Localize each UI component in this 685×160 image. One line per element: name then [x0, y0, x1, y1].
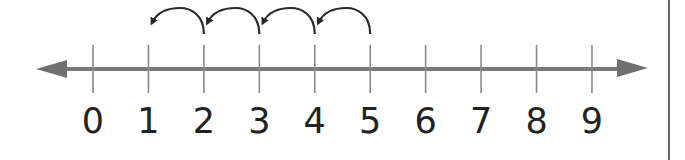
- tick-label-8: 8: [517, 102, 557, 140]
- hop-arcs: [152, 8, 370, 34]
- hop-arc-4-to-3: [263, 8, 314, 34]
- tick-label-1: 1: [128, 102, 168, 140]
- tick-label-0: 0: [73, 102, 113, 140]
- hop-arc-2-to-1: [152, 8, 203, 34]
- tick-label-3: 3: [239, 102, 279, 140]
- hop-arc-5-to-4: [319, 8, 370, 34]
- right-arrow-icon: [617, 59, 648, 77]
- number-line-diagram: 0123456789: [0, 0, 685, 160]
- hop-arc-3-to-2: [208, 8, 259, 34]
- tick-label-4: 4: [295, 102, 335, 140]
- tick-label-5: 5: [350, 102, 390, 140]
- tick-label-2: 2: [184, 102, 224, 140]
- left-arrow-icon: [36, 60, 67, 78]
- tick-label-9: 9: [572, 102, 612, 140]
- tick-label-6: 6: [406, 102, 446, 140]
- tick-label-7: 7: [461, 102, 501, 140]
